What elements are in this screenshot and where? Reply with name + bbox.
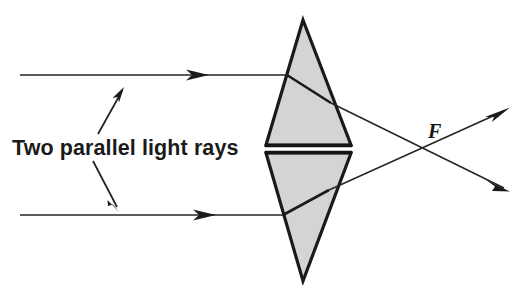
lower-ray-exit-arrow-icon xyxy=(485,108,510,123)
lower-ray-outgoing-segment xyxy=(329,111,504,190)
lower-prism xyxy=(266,153,351,281)
parallel-rays-label: Two parallel light rays xyxy=(12,136,239,160)
upper-prism xyxy=(266,20,351,145)
focal-point-label: F xyxy=(427,120,442,142)
upper-ray-outgoing-segment xyxy=(331,103,504,188)
prism-group xyxy=(265,20,352,281)
optics-svg-canvas: F Two parallel light rays xyxy=(0,0,529,298)
lower-leader-line xyxy=(93,161,117,207)
upper-ray-exit-arrow-icon xyxy=(486,180,510,192)
upper-leader-arrow-icon xyxy=(113,87,125,103)
optics-diagram: F Two parallel light rays xyxy=(0,0,529,298)
